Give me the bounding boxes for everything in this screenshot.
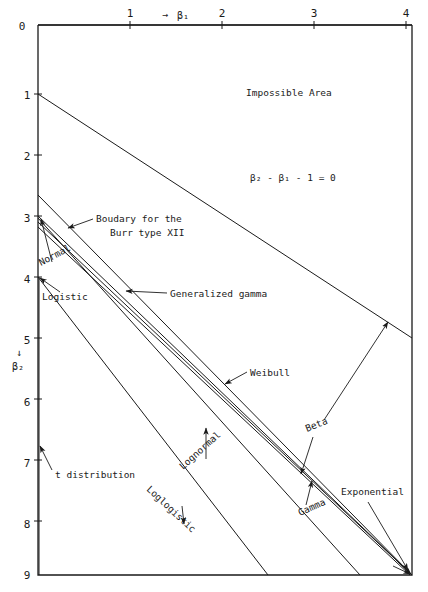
label-normal: Normal (37, 242, 72, 268)
curve-weibull (38, 222, 412, 575)
x-tick-label-0: 0 (19, 20, 26, 33)
moment-ratio-diagram: 0 1 2 3 4 → β₁ 1 2 3 4 5 6 7 8 9 ↓ β₂ (0, 0, 428, 592)
label-exponential: Exponential (341, 486, 404, 497)
label-generalized-gamma: Generalized gamma (170, 288, 267, 299)
label-lognormal: Lognormal (177, 429, 223, 472)
label-burr-line2: Burr type XII (110, 227, 184, 238)
curve-loglogistic (38, 277, 268, 575)
x-tick-label-2: 2 (219, 7, 226, 20)
x-axis-arrow-icon: → (162, 9, 168, 20)
label-weibull: Weibull (250, 367, 290, 378)
y-tick-label-6: 6 (24, 396, 31, 409)
x-tick-label-4: 4 (403, 7, 410, 20)
leader-generalized-gamma (126, 291, 167, 293)
curve-burr-type-xii (38, 195, 412, 575)
y-tick-label-7: 7 (24, 457, 31, 470)
y-tick-label-1: 1 (24, 89, 31, 102)
curve-lognormal (38, 218, 360, 575)
label-gamma: Gamma (296, 496, 327, 518)
leader-t-distribution (40, 446, 52, 470)
x-axis-label: β₁ (177, 10, 189, 21)
y-axis-label: β₂ (12, 361, 24, 372)
y-tick-label-3: 3 (24, 212, 31, 225)
label-loglogistic: Loglogistic (145, 483, 199, 534)
x-tick-label-3: 3 (311, 7, 318, 20)
curve-impossible-boundary (38, 94, 412, 338)
leader-logistic (40, 278, 60, 292)
y-tick-label-4: 4 (24, 273, 31, 286)
y-tick-label-9: 9 (24, 569, 31, 582)
y-tick-label-2: 2 (24, 150, 31, 163)
label-impossible-area: Impossible Area (246, 87, 332, 98)
x-tick-label-1: 1 (127, 7, 134, 20)
label-boundary-equation: β₂ - β₁ - 1 = 0 (250, 172, 336, 183)
y-tick-label-5: 5 (24, 334, 31, 347)
label-logistic: Logistic (42, 291, 88, 302)
leader-weibull (225, 372, 247, 384)
label-burr-line1: Boudary for the (96, 213, 182, 224)
leader-beta-upper (324, 322, 388, 420)
y-axis-arrow-icon: ↓ (16, 347, 22, 358)
label-t-distribution: t distribution (55, 469, 135, 480)
y-tick-label-8: 8 (24, 518, 31, 531)
curve-generalized-gamma (38, 216, 412, 575)
chart-canvas: 0 1 2 3 4 → β₁ 1 2 3 4 5 6 7 8 9 ↓ β₂ (0, 0, 428, 592)
leader-burr (68, 219, 93, 228)
